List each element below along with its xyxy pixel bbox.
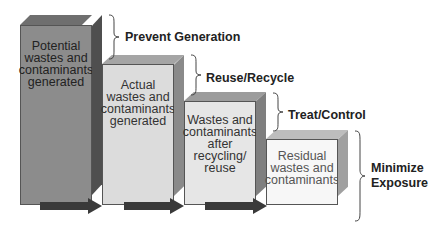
stage-front-face: Wastes and contaminants after recycling/… xyxy=(184,101,256,205)
stage-label: Actual wastes and contaminants generated xyxy=(99,79,177,127)
stage-side-face xyxy=(338,130,348,196)
stage-front-face: Residual wastes and contaminants xyxy=(266,139,338,205)
stage-after-recycling: Wastes and contaminants after recycling/… xyxy=(184,101,256,205)
arrow-icon xyxy=(40,198,102,214)
stage-residual-wastes: Residual wastes and contaminants xyxy=(266,139,338,205)
brace-icon xyxy=(272,92,284,132)
stage-potential-wastes: Potential wastes and contaminants genera… xyxy=(20,25,92,205)
stage-actual-wastes: Actual wastes and contaminants generated xyxy=(102,64,174,205)
brace-icon xyxy=(190,54,202,96)
stage-front-face: Actual wastes and contaminants generated xyxy=(102,64,174,205)
arrow-icon xyxy=(205,198,267,214)
arrow-icon xyxy=(124,198,184,214)
brace-icon xyxy=(354,130,366,222)
stage-label: Residual wastes and contaminants xyxy=(263,150,341,186)
step-label-reuse-recycle: Reuse/Recycle xyxy=(206,71,294,86)
stage-top-face xyxy=(20,15,92,25)
step-label-prevent-generation: Prevent Generation xyxy=(125,30,240,45)
step-label-minimize-exposure: Minimize Exposure xyxy=(371,161,428,191)
stage-front-face: Potential wastes and contaminants genera… xyxy=(20,25,92,205)
waste-management-diagram: Potential wastes and contaminants genera… xyxy=(0,0,434,245)
step-label-treat-control: Treat/Control xyxy=(288,108,366,123)
stage-label: Potential wastes and contaminants genera… xyxy=(17,40,95,88)
brace-icon xyxy=(108,14,120,60)
stage-label: Wastes and contaminants after recycling/… xyxy=(181,114,259,174)
